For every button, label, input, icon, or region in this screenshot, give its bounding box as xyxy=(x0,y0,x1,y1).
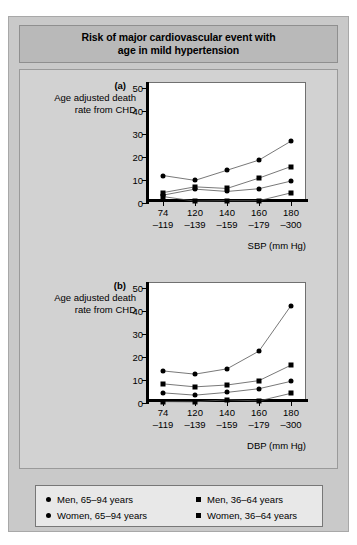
panel-b-y-axis-label: Age adjusted death rate from CHD xyxy=(24,292,136,316)
y-tick-mark xyxy=(142,203,147,204)
legend-label-men-young: Men, 36–64 years xyxy=(207,494,283,505)
x-tick-label: 120–139 xyxy=(184,207,205,231)
legend-item-men-old: Men, 65–94 years xyxy=(46,494,196,505)
panel-a-x-axis-title: SBP (mm Hg) xyxy=(146,240,306,251)
figure-title: Risk of major cardiovascular event with … xyxy=(82,31,276,57)
chart-panel-a: (a) Age adjusted death rate from CHD 010… xyxy=(20,70,339,268)
figure-title-line1: Risk of major cardiovascular event with xyxy=(82,31,276,43)
plot-area-b: 0102030405074–119120–139140–159160–17918… xyxy=(146,282,306,402)
plot-area-a: 0102030405074–119120–139140–159160–17918… xyxy=(146,82,306,202)
x-tick-mark xyxy=(291,201,292,206)
panel-a-tag: (a) xyxy=(114,80,126,91)
legend-item-women-young: Women, 36–64 years xyxy=(196,510,297,521)
data-point-circle xyxy=(193,393,198,398)
square-marker-icon xyxy=(196,513,201,518)
legend-label-women-young: Women, 36–64 years xyxy=(207,510,297,521)
legend-item-men-young: Men, 36–64 years xyxy=(196,494,283,505)
chart-panel-b: (b) Age adjusted death rate from CHD 010… xyxy=(20,270,339,468)
data-point-circle xyxy=(289,139,294,144)
y-tick-mark xyxy=(142,111,147,112)
charts-panel: (a) Age adjusted death rate from CHD 010… xyxy=(19,69,338,469)
data-point-square xyxy=(257,378,262,383)
chart-legend: Men, 65–94 years Men, 36–64 years Women,… xyxy=(35,485,323,527)
circle-marker-icon xyxy=(46,513,51,518)
figure-title-line2: age in mild hypertension xyxy=(118,44,239,56)
square-marker-icon xyxy=(196,497,201,502)
series-line xyxy=(163,141,291,180)
data-point-square xyxy=(289,190,294,195)
y-axis-label-line1: Age adjusted death xyxy=(54,92,136,103)
data-point-circle xyxy=(161,390,166,395)
y-axis-label-line1: Age adjusted death xyxy=(54,292,136,303)
x-tick-mark xyxy=(291,401,292,406)
y-tick-mark xyxy=(142,288,147,289)
y-tick-mark xyxy=(142,334,147,335)
data-point-circle xyxy=(257,386,262,391)
x-tick-label: 74–119 xyxy=(153,407,173,431)
circle-marker-icon xyxy=(46,497,51,502)
x-tick-label: 140–159 xyxy=(216,407,237,431)
data-point-square xyxy=(225,383,230,388)
legend-label-women-old: Women, 65–94 years xyxy=(57,510,147,521)
legend-row-2: Women, 65–94 years Women, 36–64 years xyxy=(46,507,322,523)
panel-b-x-axis-title: DBP (mm Hg) xyxy=(146,440,306,451)
data-point-circle xyxy=(225,168,230,173)
data-point-circle xyxy=(257,349,262,354)
data-point-circle xyxy=(225,366,230,371)
figure-container: Risk of major cardiovascular event with … xyxy=(8,16,349,532)
data-point-square xyxy=(161,194,166,199)
data-point-circle xyxy=(193,178,198,183)
series-line xyxy=(163,306,291,375)
y-tick-mark xyxy=(142,403,147,404)
data-point-circle xyxy=(289,379,294,384)
x-tick-label: 160–179 xyxy=(248,407,269,431)
x-tick-mark xyxy=(163,201,164,206)
y-axis-label-line2: rate from CHD xyxy=(75,304,136,315)
x-tick-label: 180–300 xyxy=(280,207,301,231)
x-tick-label: 160–179 xyxy=(248,207,269,231)
y-tick-mark xyxy=(142,357,147,358)
x-tick-label: 180–300 xyxy=(280,407,301,431)
y-tick-mark xyxy=(142,134,147,135)
series-lines-a xyxy=(147,83,305,201)
legend-item-women-old: Women, 65–94 years xyxy=(46,510,196,521)
data-point-square xyxy=(193,199,198,204)
data-point-square xyxy=(225,397,230,402)
data-point-square xyxy=(161,381,166,386)
data-point-circle xyxy=(161,368,166,373)
figure-title-bar: Risk of major cardiovascular event with … xyxy=(19,25,338,63)
y-axis-label-line2: rate from CHD xyxy=(75,104,136,115)
y-tick-mark xyxy=(142,157,147,158)
legend-label-men-old: Men, 65–94 years xyxy=(57,494,133,505)
x-tick-label: 120–139 xyxy=(184,407,205,431)
data-point-square xyxy=(257,398,262,403)
data-point-circle xyxy=(193,187,198,192)
data-point-circle xyxy=(257,158,262,163)
y-tick-mark xyxy=(142,311,147,312)
data-point-circle xyxy=(161,173,166,178)
data-point-circle xyxy=(225,390,230,395)
panel-a-y-axis-label: Age adjusted death rate from CHD xyxy=(24,92,136,116)
data-point-square xyxy=(225,198,230,203)
data-point-circle xyxy=(193,372,198,377)
data-point-square xyxy=(257,176,262,181)
data-point-square xyxy=(193,384,198,389)
panel-b-tag: (b) xyxy=(114,280,126,291)
x-tick-label: 74–119 xyxy=(153,207,173,231)
y-tick-mark xyxy=(142,380,147,381)
data-point-circle xyxy=(289,179,294,184)
y-tick-mark xyxy=(142,180,147,181)
data-point-square xyxy=(289,363,294,368)
legend-row-1: Men, 65–94 years Men, 36–64 years xyxy=(46,491,322,507)
data-point-circle xyxy=(289,303,294,308)
data-point-square xyxy=(193,399,198,404)
y-tick-mark xyxy=(142,88,147,89)
data-point-square xyxy=(289,164,294,169)
data-point-square xyxy=(289,391,294,396)
x-tick-label: 140–159 xyxy=(216,207,237,231)
data-point-square xyxy=(161,399,166,404)
data-point-square xyxy=(257,198,262,203)
data-point-circle xyxy=(257,186,262,191)
data-point-circle xyxy=(225,189,230,194)
